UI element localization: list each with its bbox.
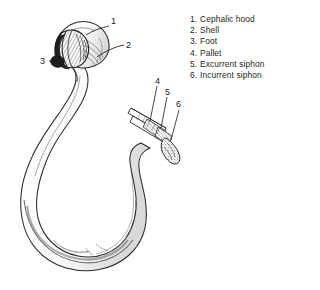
foot bbox=[51, 56, 65, 68]
leader-line-6 bbox=[171, 110, 179, 140]
callout-number-1: 1 bbox=[111, 16, 116, 26]
worm-body bbox=[21, 58, 150, 271]
legend-number-2: 2. bbox=[190, 25, 200, 36]
legend-number-5: 5. bbox=[190, 59, 200, 70]
legend-label-foot: Foot bbox=[200, 36, 282, 47]
legend-item-4: 4. Pallet bbox=[190, 48, 282, 59]
legend-label-shell: Shell bbox=[200, 25, 282, 36]
siphon-tip bbox=[161, 138, 180, 164]
legend: 1. Cephalic hood 2. Shell 3. Foot 4. Pal… bbox=[190, 14, 282, 81]
legend-item-1: 1. Cephalic hood bbox=[190, 14, 282, 25]
callout-number-4: 4 bbox=[155, 76, 160, 86]
leader-line-5 bbox=[161, 97, 167, 128]
legend-label-incurrent-siphon: Incurrent siphon bbox=[200, 70, 282, 81]
legend-label-cephalic-hood: Cephalic hood bbox=[200, 14, 282, 25]
legend-item-2: 2. Shell bbox=[190, 25, 282, 36]
leader-line-4 bbox=[150, 86, 157, 121]
callout-number-5: 5 bbox=[165, 87, 170, 97]
legend-item-6: 6. Incurrent siphon bbox=[190, 70, 282, 81]
legend-number-4: 4. bbox=[190, 48, 200, 59]
legend-number-3: 3. bbox=[190, 36, 200, 47]
legend-item-3: 3. Foot bbox=[190, 36, 282, 47]
legend-number-1: 1. bbox=[190, 14, 200, 25]
callout-number-6: 6 bbox=[176, 99, 181, 109]
legend-item-5: 5. Excurrent siphon bbox=[190, 59, 282, 70]
callout-number-3: 3 bbox=[40, 56, 45, 66]
legend-number-6: 6. bbox=[190, 70, 200, 81]
legend-label-excurrent-siphon: Excurrent siphon bbox=[200, 59, 282, 70]
callout-number-2: 2 bbox=[126, 40, 131, 50]
legend-label-pallet: Pallet bbox=[200, 48, 282, 59]
